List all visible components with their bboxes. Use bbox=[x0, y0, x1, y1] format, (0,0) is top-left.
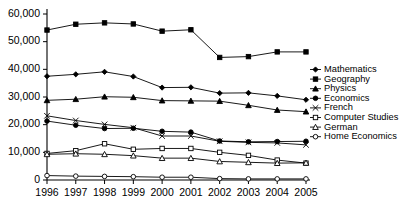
x-axis-tick-label: 1996 bbox=[35, 186, 59, 198]
data-point-marker bbox=[217, 150, 221, 154]
legend-item-german[interactable]: German bbox=[310, 122, 358, 132]
x-axis-tick-label: 2005 bbox=[294, 186, 318, 198]
legend-item-home-economics[interactable]: Home Economics bbox=[310, 131, 397, 141]
data-point-marker bbox=[304, 50, 308, 54]
line-chart: 010,00020,00030,00040,00050,00060,000199… bbox=[0, 0, 401, 218]
y-axis-tick-label: 40,000 bbox=[8, 62, 40, 74]
data-point-marker bbox=[246, 153, 250, 157]
y-axis-tick-label: 60,000 bbox=[8, 7, 40, 19]
legend-label: Geography bbox=[324, 74, 370, 84]
legend-label: Economics bbox=[324, 93, 370, 103]
series-geography bbox=[45, 21, 308, 60]
data-point-marker bbox=[102, 126, 107, 131]
data-point-marker bbox=[246, 177, 251, 182]
legend-label: Physics bbox=[324, 83, 356, 93]
legend-label: German bbox=[324, 122, 358, 132]
legend-item-economics[interactable]: Economics bbox=[310, 93, 370, 103]
data-point-marker bbox=[189, 28, 193, 32]
data-point-marker bbox=[45, 28, 49, 32]
legend-label: Mathematics bbox=[324, 64, 377, 74]
legend-item-mathematics[interactable]: Mathematics bbox=[310, 64, 377, 74]
data-point-marker bbox=[160, 29, 164, 33]
data-point-marker bbox=[44, 74, 49, 79]
data-point-marker bbox=[246, 54, 250, 58]
legend-item-physics[interactable]: Physics bbox=[310, 83, 356, 93]
series-mathematics bbox=[44, 69, 308, 102]
data-point-marker bbox=[160, 175, 165, 180]
data-point-marker bbox=[275, 93, 280, 98]
data-point-marker bbox=[189, 175, 194, 180]
data-point-marker bbox=[188, 85, 193, 90]
data-point-marker bbox=[217, 91, 222, 96]
series-physics bbox=[44, 94, 309, 114]
data-point-marker bbox=[313, 115, 317, 119]
data-point-marker bbox=[131, 147, 135, 151]
data-point-marker bbox=[275, 177, 280, 182]
data-point-marker bbox=[131, 74, 136, 79]
series-line bbox=[47, 176, 306, 179]
data-point-marker bbox=[160, 146, 164, 150]
series-french bbox=[44, 113, 309, 148]
data-point-marker bbox=[102, 21, 106, 25]
chart-canvas: 010,00020,00030,00040,00050,00060,000199… bbox=[0, 0, 401, 218]
data-point-marker bbox=[313, 134, 318, 139]
series-line bbox=[47, 144, 306, 163]
series-line bbox=[47, 23, 306, 58]
series-german bbox=[44, 151, 309, 166]
data-point-marker bbox=[131, 22, 135, 26]
legend-label: Computer Studies bbox=[324, 112, 399, 122]
y-axis-tick-label: 10,000 bbox=[8, 145, 40, 157]
data-point-marker bbox=[246, 90, 251, 95]
data-point-marker bbox=[313, 77, 317, 81]
legend-item-computer-studies[interactable]: Computer Studies bbox=[310, 112, 399, 122]
x-axis-tick-label: 1998 bbox=[93, 186, 117, 198]
data-point-marker bbox=[74, 22, 78, 26]
data-point-marker bbox=[45, 119, 50, 124]
data-point-marker bbox=[45, 173, 50, 178]
data-point-marker bbox=[304, 177, 309, 182]
data-point-marker bbox=[303, 97, 308, 102]
series-line bbox=[47, 116, 306, 145]
legend-label: French bbox=[324, 102, 353, 112]
data-point-marker bbox=[73, 174, 78, 179]
x-axis-tick-label: 2003 bbox=[237, 186, 261, 198]
legend: MathematicsGeographyPhysicsEconomicsFren… bbox=[310, 64, 399, 141]
data-point-marker bbox=[102, 174, 107, 179]
data-point-marker bbox=[313, 67, 318, 72]
y-axis-tick-label: 50,000 bbox=[8, 34, 40, 46]
data-point-marker bbox=[131, 174, 136, 179]
x-axis-tick-label: 1999 bbox=[122, 186, 146, 198]
data-point-marker bbox=[189, 146, 193, 150]
series-line bbox=[47, 72, 306, 100]
series-line bbox=[47, 97, 306, 112]
y-axis-tick-label: 0 bbox=[34, 173, 40, 185]
data-point-marker bbox=[217, 176, 222, 181]
x-axis-tick-label: 2000 bbox=[150, 186, 174, 198]
x-axis-tick-label: 1997 bbox=[64, 186, 88, 198]
data-point-marker bbox=[275, 50, 279, 54]
x-axis-tick-label: 2002 bbox=[208, 186, 232, 198]
data-point-marker bbox=[160, 129, 165, 134]
y-axis-tick-label: 20,000 bbox=[8, 117, 40, 129]
data-point-marker bbox=[102, 69, 107, 74]
x-axis-tick-label: 2001 bbox=[179, 186, 203, 198]
series-line bbox=[47, 121, 306, 142]
data-point-marker bbox=[189, 130, 194, 135]
x-axis-tick-label: 2004 bbox=[266, 186, 290, 198]
y-axis-tick-label: 30,000 bbox=[8, 90, 40, 102]
data-point-marker bbox=[217, 55, 221, 59]
legend-label: Home Economics bbox=[324, 131, 397, 141]
data-point-marker bbox=[160, 85, 165, 90]
data-point-marker bbox=[73, 123, 78, 128]
data-point-marker bbox=[102, 142, 106, 146]
legend-item-geography[interactable]: Geography bbox=[310, 74, 370, 84]
data-point-marker bbox=[73, 72, 78, 77]
data-point-marker bbox=[313, 96, 318, 101]
series-economics bbox=[45, 119, 309, 144]
legend-item-french[interactable]: French bbox=[310, 102, 353, 112]
